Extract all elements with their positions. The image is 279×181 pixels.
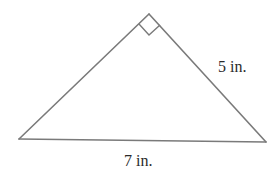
right-angle-marker (139, 24, 160, 35)
triangle-diagram: 5 in. 7 in. (0, 0, 279, 181)
left-leg (19, 14, 149, 139)
leg-length-label: 5 in. (218, 58, 246, 75)
right-leg (149, 14, 266, 142)
hypotenuse-base (19, 139, 266, 142)
hypotenuse-length-label: 7 in. (124, 152, 152, 169)
